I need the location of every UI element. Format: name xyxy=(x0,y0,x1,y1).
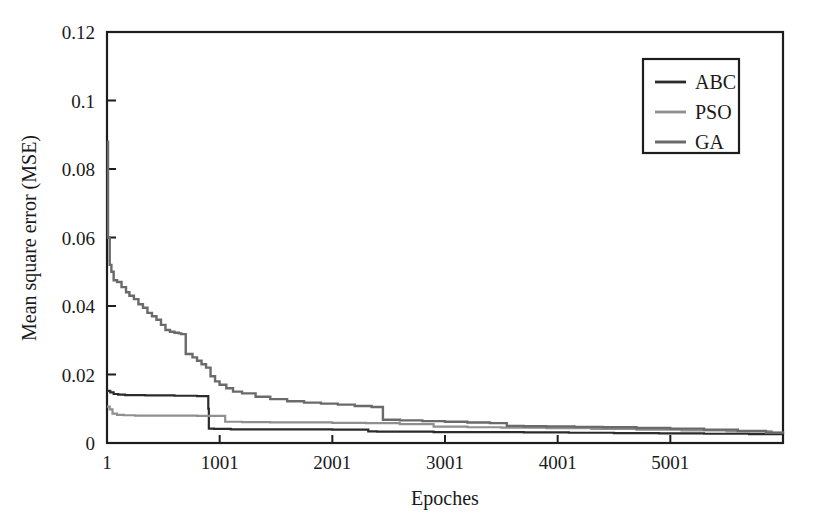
x-axis-title: Epoches xyxy=(411,487,479,510)
x-tick-label: 4001 xyxy=(539,452,577,473)
y-tick-label: 0.1 xyxy=(71,91,95,112)
y-tick-label: 0.02 xyxy=(62,365,95,386)
y-tick-label: 0.06 xyxy=(62,228,95,249)
x-tick-label: 3001 xyxy=(426,452,464,473)
chart-page: 00.020.040.060.080.10.12 110012001300140… xyxy=(0,0,813,525)
y-tick-label: 0 xyxy=(86,433,96,454)
legend-label-abc: ABC xyxy=(695,71,736,93)
legend-label-ga: GA xyxy=(695,131,724,153)
mse-convergence-chart: 00.020.040.060.080.10.12 110012001300140… xyxy=(0,0,813,525)
y-tick-label: 0.12 xyxy=(62,22,95,43)
x-tick-label: 1001 xyxy=(201,452,239,473)
y-tick-label: 0.08 xyxy=(62,159,95,180)
series-line-ga xyxy=(107,142,783,434)
data-series-group xyxy=(107,142,783,435)
legend-label-pso: PSO xyxy=(695,101,732,123)
y-axis-title: Mean square error (MSE) xyxy=(18,135,41,341)
x-axis-ticks: 110012001300140015001 xyxy=(102,435,689,473)
x-tick-label: 1 xyxy=(102,452,112,473)
y-tick-label: 0.04 xyxy=(62,296,96,317)
x-tick-label: 2001 xyxy=(313,452,351,473)
chart-legend: ABCPSOGA xyxy=(643,59,739,153)
x-tick-label: 5001 xyxy=(651,452,689,473)
